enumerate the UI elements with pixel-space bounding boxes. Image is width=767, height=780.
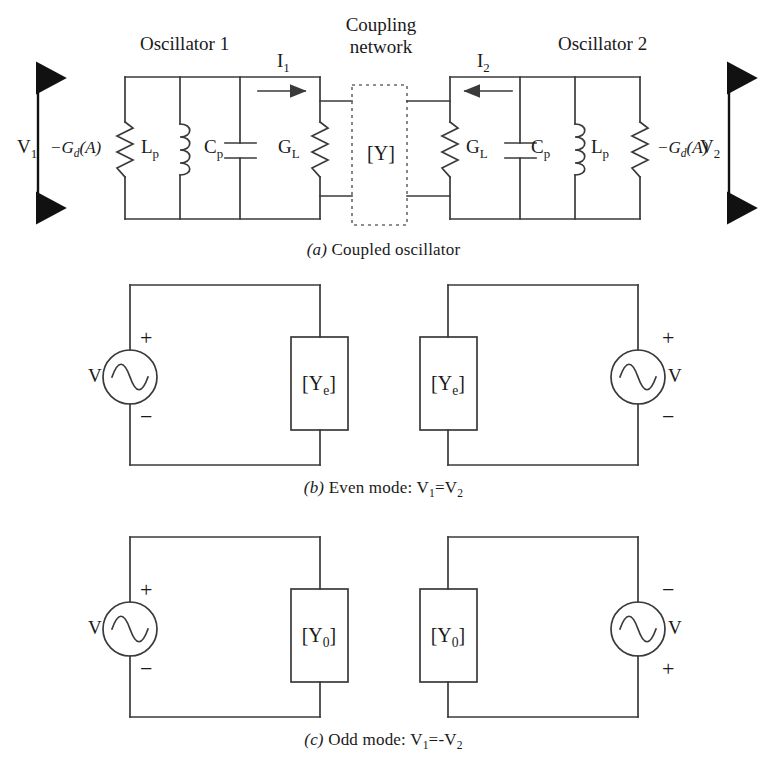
- b-right-plus-sign: +: [662, 325, 674, 351]
- negative-conductance-label-left: −Gd(A): [50, 138, 101, 160]
- panel-c-circuit: [103, 537, 665, 717]
- cp-left-sub: p: [217, 146, 223, 161]
- lp-left-sub: p: [153, 146, 159, 161]
- gl-right-sub: L: [480, 146, 488, 161]
- b-right-sine-glyph: [620, 364, 656, 390]
- gl-right-text: G: [466, 136, 480, 157]
- gl-left-text: G: [278, 136, 292, 157]
- osc2-negative-conductance-resistor: [632, 122, 648, 177]
- lp-right-text: L: [591, 136, 603, 157]
- neg-gd-left-arg: (A): [80, 138, 102, 157]
- neg-gd-right-text: −G: [657, 138, 681, 157]
- panel-a-caption-prefix: (a): [307, 240, 327, 259]
- cp-right-sub: p: [544, 146, 550, 161]
- c-left-minus-sign: −: [140, 656, 152, 682]
- c-right-admittance-suffix: ]: [459, 624, 466, 646]
- c-right-sine-glyph: [620, 616, 656, 642]
- voltage-label-v1-text: V: [17, 136, 31, 157]
- c-left-source-label: V: [88, 617, 102, 639]
- panel-b-circuit: [103, 285, 665, 465]
- c-left-admittance-text: [Y: [302, 624, 323, 646]
- c-right-minus-sign: −: [662, 577, 674, 603]
- b-left-plus-sign: +: [140, 325, 152, 351]
- oscillator-2-label: Oscillator 2: [558, 33, 647, 55]
- c-right-admittance-sub: 0: [452, 635, 459, 650]
- b-right-admittance-text: [Y: [431, 372, 452, 394]
- c-right-source-label: V: [668, 617, 682, 639]
- c-left-admittance-label: [Y0]: [302, 624, 337, 651]
- coupling-network-label-line1: Coupling: [346, 14, 417, 36]
- lp-right-sub: p: [603, 146, 609, 161]
- b-left-admittance-suffix: ]: [329, 372, 336, 394]
- osc1-negative-conductance-resistor: [117, 122, 133, 177]
- neg-gd-left-text: −G: [50, 138, 74, 157]
- panel-a-circuit-right: [407, 77, 648, 219]
- panel-c-caption: (c) Odd mode: V1=-V2: [0, 730, 767, 752]
- panel-b-caption-prefix: (b): [304, 478, 324, 497]
- current-label-i2-sub: 2: [483, 60, 489, 75]
- figure-root: Oscillator 1 Oscillator 2 Coupling netwo…: [0, 0, 767, 780]
- osc2-load-resistor-gl: [442, 122, 458, 177]
- osc1-load-resistor-gl: [312, 122, 328, 177]
- capacitor-label-cp-left: Cp: [204, 136, 223, 162]
- voltage-label-v2-sub: 2: [714, 146, 720, 161]
- b-right-source-label: V: [668, 365, 682, 387]
- load-label-gl-right: GL: [466, 136, 488, 162]
- b-left-sine-glyph: [112, 364, 148, 390]
- b-right-admittance-label: [Ye]: [431, 372, 465, 399]
- current-label-i2: I2: [477, 50, 490, 76]
- panel-c-caption-sub2: 2: [457, 739, 463, 752]
- current-label-i1-sub: 1: [283, 60, 289, 75]
- current-label-i1: I1: [277, 50, 290, 76]
- lp-left-text: L: [141, 136, 153, 157]
- panel-a-caption: (a) Coupled oscillator: [0, 240, 767, 260]
- b-left-admittance-label: [Ye]: [302, 372, 336, 399]
- c-left-sine-glyph: [112, 616, 148, 642]
- panel-a-caption-text: Coupled oscillator: [327, 240, 460, 259]
- c-left-admittance-suffix: ]: [330, 624, 337, 646]
- panel-b-caption: (b) Even mode: V1=V2: [0, 478, 767, 500]
- panel-c-caption-prefix: (c): [304, 730, 323, 749]
- voltage-label-v1-sub: 1: [31, 146, 37, 161]
- neg-gd-right-arg: (A): [687, 138, 709, 157]
- oscillator-1-label: Oscillator 1: [140, 33, 229, 55]
- load-label-gl-left: GL: [278, 136, 300, 162]
- b-left-source-label: V: [88, 365, 102, 387]
- panel-b-caption-mid: =V: [435, 478, 457, 497]
- c-right-admittance-text: [Y: [431, 624, 452, 646]
- osc1-inductor-lp: [180, 124, 190, 175]
- c-right-plus-sign: +: [662, 656, 674, 682]
- inductor-label-lp-left: Lp: [141, 136, 159, 162]
- cp-left-text: C: [204, 136, 217, 157]
- b-right-minus-sign: −: [662, 404, 674, 430]
- panel-b-caption-text: Even mode: V: [324, 478, 429, 497]
- panel-b-caption-sub2: 2: [457, 487, 463, 500]
- osc2-inductor-lp: [575, 124, 585, 175]
- capacitor-label-cp-right: Cp: [531, 136, 550, 162]
- voltage-label-v1: V1: [17, 136, 37, 162]
- b-left-admittance-text: [Y: [302, 372, 323, 394]
- negative-conductance-label-right: −Gd(A): [657, 138, 708, 160]
- inductor-label-lp-right: Lp: [591, 136, 609, 162]
- circuit-diagram-svg: [0, 0, 767, 780]
- panel-c-caption-mid: =-V: [429, 730, 457, 749]
- c-left-admittance-sub: 0: [323, 635, 330, 650]
- coupling-network-label-line2: network: [350, 36, 412, 58]
- b-left-minus-sign: −: [140, 404, 152, 430]
- coupling-matrix-label: [Y]: [367, 142, 395, 165]
- b-right-admittance-suffix: ]: [458, 372, 465, 394]
- gl-left-sub: L: [292, 146, 300, 161]
- c-right-admittance-label: [Y0]: [431, 624, 466, 651]
- panel-c-caption-text: Odd mode: V: [324, 730, 423, 749]
- cp-right-text: C: [531, 136, 544, 157]
- c-left-plus-sign: +: [140, 577, 152, 603]
